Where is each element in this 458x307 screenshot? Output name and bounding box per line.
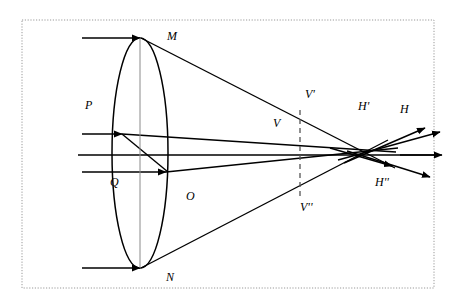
ray-P-lower	[122, 134, 168, 172]
label-M: M	[166, 29, 178, 43]
label-N: N	[165, 270, 175, 284]
label-Hpp: H''	[374, 175, 389, 189]
exit-rays-group	[330, 128, 442, 177]
exit-ray-up-1	[344, 128, 425, 163]
label-Vpp: V''	[300, 200, 313, 214]
figure-border	[22, 20, 434, 288]
label-O: O	[186, 189, 195, 203]
label-Vp: V'	[305, 87, 315, 101]
label-P: P	[84, 98, 93, 112]
ray-M-to-Vpp	[141, 38, 395, 168]
label-Hp: H'	[357, 99, 370, 113]
ray-Q-out	[166, 148, 398, 172]
refracted-rays-group	[122, 38, 440, 268]
incoming-rays-group	[78, 38, 166, 268]
ray-diagram-canvas: MPQONVV'V''H'HH''	[0, 0, 458, 307]
label-Q: Q	[110, 175, 119, 189]
optical-diagram-figure: MPQONVV'V''H'HH''	[0, 0, 458, 307]
label-V: V	[273, 116, 282, 130]
ray-P-upper	[122, 134, 396, 152]
label-H: H	[399, 102, 410, 116]
